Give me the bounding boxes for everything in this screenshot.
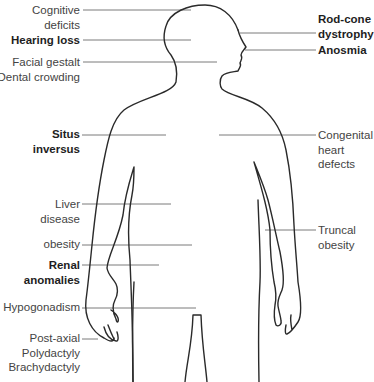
- label-liver-disease: Liver disease: [40, 197, 80, 226]
- label-facial-gestalt: Facial gestalt Dental crowding: [0, 55, 80, 84]
- label-anosmia: Anosmia: [318, 43, 367, 58]
- label-rod-cone-dystrophy: Rod-cone dystrophy: [318, 12, 374, 41]
- label-polydactyly: Post-axial Polydactyly Brachydactyly: [8, 331, 80, 375]
- label-cognitive-deficits: Cognitive deficits: [32, 3, 80, 32]
- body-outline-left: [86, 5, 238, 341]
- left-hand: [104, 167, 134, 382]
- right-torso: [258, 200, 260, 382]
- left-torso: [133, 282, 134, 382]
- right-arm-inner: [254, 162, 283, 326]
- label-hypogonadism: Hypogonadism: [3, 300, 80, 315]
- label-situs-inversus: Situs inversus: [33, 127, 80, 156]
- label-obesity: obesity: [44, 237, 80, 252]
- label-renal-anomalies: Renal anomalies: [24, 258, 80, 287]
- label-congenital-heart-defects: Congenital heart defects: [318, 128, 373, 172]
- leg-gap: [185, 315, 207, 382]
- label-hearing-loss: Hearing loss: [11, 33, 80, 48]
- label-truncal-obesity: Truncal obesity: [318, 223, 356, 252]
